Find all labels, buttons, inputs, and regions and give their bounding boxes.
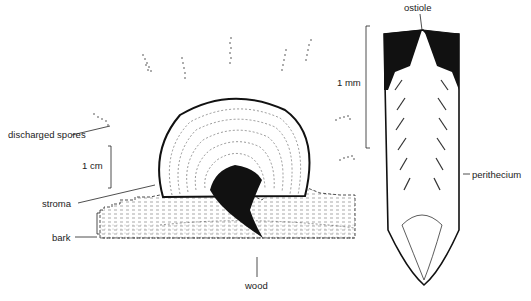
- label-discharged-spores: discharged spores: [8, 130, 86, 140]
- label-bark: bark: [52, 233, 70, 243]
- label-ostiole: ostiole: [404, 3, 431, 13]
- label-wood: wood: [245, 281, 268, 291]
- label-stroma: stroma: [42, 199, 71, 209]
- label-scale-1cm: 1 cm: [82, 161, 103, 171]
- perithecium: [384, 30, 459, 285]
- label-scale-1mm: 1 mm: [337, 78, 361, 88]
- label-perithecium: perithecium: [472, 170, 521, 180]
- diagram-canvas: [0, 0, 531, 301]
